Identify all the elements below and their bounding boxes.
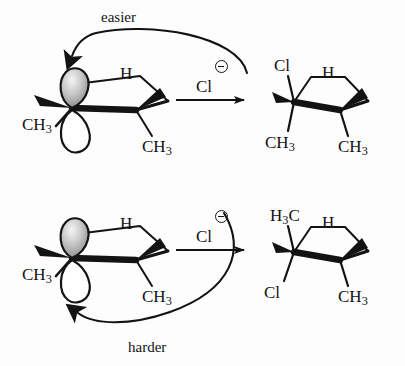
left-methyl-subscript: 3	[46, 272, 52, 286]
h3c-c: C	[288, 206, 299, 225]
right-methyl-bond	[340, 260, 348, 286]
right-methyl-bond	[340, 110, 348, 136]
ring-front-bond	[72, 258, 136, 260]
bottom-product-h3c-label: H3C	[270, 207, 300, 226]
bottom-product-h-label: H	[322, 214, 334, 231]
reaction-scheme-figure: easier harder H CH3 CH3 Cl Cl H CH3 CH3 …	[0, 0, 405, 366]
right-methyl-subscript: 3	[166, 144, 172, 158]
bottom-product-structure	[272, 226, 368, 286]
left-methyl-text: CH	[265, 133, 289, 152]
reaction-scheme-drawing	[0, 0, 405, 366]
left-wedge-bond	[272, 242, 294, 253]
right-methyl-bond	[136, 260, 152, 286]
right-methyl-text: CH	[142, 137, 166, 156]
ring-front-bond	[294, 102, 340, 110]
cl-bond	[284, 252, 294, 281]
right-methyl-bond	[136, 110, 152, 136]
left-methyl-subscript: 3	[46, 122, 52, 136]
top-product-h-label: H	[322, 64, 334, 81]
bottom-reactant-left-methyl-label: CH3	[22, 266, 52, 285]
ring-front-bond	[294, 252, 340, 260]
bottom-reactant-h-label: H	[120, 215, 132, 232]
p-orbital-top-lobe	[61, 218, 89, 258]
p-orbital-bottom-lobe	[61, 260, 90, 302]
chloride-symbol: Cl	[196, 77, 212, 96]
top-product-right-methyl-label: CH3	[338, 138, 368, 157]
methyl-up-bond	[288, 226, 294, 252]
bottom-chloride-reagent: Cl	[196, 228, 212, 245]
bottom-reactant-right-methyl-label: CH3	[142, 288, 172, 307]
bottom-product-cl-label: Cl	[264, 284, 280, 301]
left-methyl-text: CH	[22, 265, 46, 284]
easier-pathway-label: easier	[101, 10, 136, 25]
p-orbital-bottom-lobe	[61, 110, 90, 152]
top-reactant-left-methyl-label: CH3	[22, 116, 52, 135]
minus-charge-icon	[215, 60, 228, 73]
right-methyl-text: CH	[338, 287, 362, 306]
top-product-structure	[272, 76, 368, 136]
p-orbital-top-lobe	[61, 68, 89, 108]
chloride-symbol: Cl	[196, 227, 212, 246]
right-methyl-subscript: 3	[166, 294, 172, 308]
right-methyl-text: CH	[338, 137, 362, 156]
ring-front-bond	[72, 108, 136, 110]
left-methyl-subscript: 3	[289, 140, 295, 154]
top-product-left-methyl-label: CH3	[265, 134, 295, 153]
h3c-h: H	[270, 206, 282, 225]
right-methyl-subscript: 3	[362, 294, 368, 308]
top-product-cl-label: Cl	[274, 57, 290, 74]
minus-charge-icon	[215, 210, 228, 223]
left-wedge-bond	[272, 92, 294, 103]
left-methyl-text: CH	[22, 115, 46, 134]
harder-pathway-label: harder	[128, 340, 166, 355]
left-methyl-bond	[288, 102, 294, 131]
top-reactant-right-methyl-label: CH3	[142, 138, 172, 157]
top-chloride-reagent: Cl	[196, 78, 212, 95]
top-reactant-h-label: H	[120, 65, 132, 82]
cl-bond	[288, 76, 294, 102]
right-methyl-text: CH	[142, 287, 166, 306]
bottom-product-right-methyl-label: CH3	[338, 288, 368, 307]
right-methyl-subscript: 3	[362, 144, 368, 158]
